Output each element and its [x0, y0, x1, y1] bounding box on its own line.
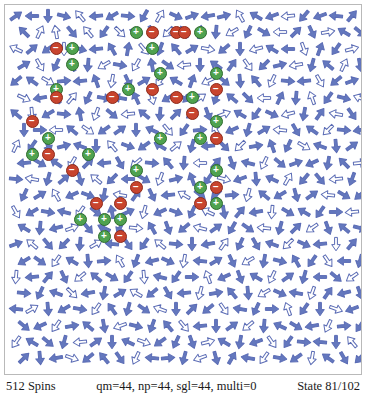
spin-arrow-icon	[175, 154, 192, 171]
negative-charge-icon[interactable]: −	[50, 91, 63, 104]
negative-charge-icon[interactable]: −	[194, 197, 207, 210]
status-bar: 512 Spins qm=44, np=44, sgl=44, multi=0 …	[0, 375, 366, 397]
charge-glyph: −	[53, 43, 59, 53]
charge-glyph: +	[69, 43, 75, 53]
positive-charge-icon[interactable]: +	[98, 230, 111, 243]
charge-glyph: +	[45, 133, 51, 143]
charge-glyph: −	[117, 198, 123, 208]
negative-charge-icon[interactable]: −	[186, 107, 199, 120]
negative-charge-icon[interactable]: −	[114, 230, 127, 243]
spin-arrow-icon	[343, 203, 360, 220]
negative-charge-icon[interactable]: −	[26, 115, 39, 128]
spin-arrow-icon	[311, 236, 328, 253]
negative-charge-icon[interactable]: −	[178, 26, 191, 39]
charge-glyph: −	[69, 165, 75, 175]
charge-glyph: −	[213, 182, 219, 192]
charge-glyph: +	[85, 149, 91, 159]
parameters-label: qm=44, np=44, sgl=44, multi=0	[56, 379, 297, 394]
charge-glyph: −	[213, 133, 219, 143]
spin-arrow-icon	[159, 350, 176, 367]
negative-charge-icon[interactable]: −	[210, 132, 223, 145]
charge-glyph: −	[197, 198, 203, 208]
negative-charge-icon[interactable]: −	[114, 197, 127, 210]
spin-arrow-icon	[287, 89, 304, 106]
charge-glyph: +	[197, 27, 203, 37]
charge-glyph: −	[149, 27, 155, 37]
positive-charge-icon[interactable]: +	[74, 213, 87, 226]
positive-charge-icon[interactable]: +	[154, 67, 167, 80]
spin-arrow-icon	[279, 73, 296, 90]
charge-glyph: +	[133, 165, 139, 175]
charge-glyph: +	[157, 68, 163, 78]
spin-arrow-icon	[39, 202, 58, 221]
positive-charge-icon[interactable]: +	[210, 115, 223, 128]
state-index-label: State 81/102	[297, 379, 360, 394]
positive-charge-icon[interactable]: +	[154, 132, 167, 145]
positive-charge-icon[interactable]: +	[82, 148, 95, 161]
negative-charge-icon[interactable]: −	[130, 181, 143, 194]
spin-arrow-icon	[7, 268, 24, 285]
negative-charge-icon[interactable]: −	[90, 197, 103, 210]
charge-glyph: −	[213, 84, 219, 94]
charge-glyph: +	[213, 68, 219, 78]
negative-charge-icon[interactable]: −	[146, 83, 159, 96]
lattice-panel[interactable]: +−−−+−+++++++−−−−−+−−++++−+−+−++−+−−−−++…	[4, 4, 362, 375]
charge-glyph: +	[189, 92, 195, 102]
positive-charge-icon[interactable]: +	[146, 42, 159, 55]
positive-charge-icon[interactable]: +	[210, 164, 223, 177]
positive-charge-icon[interactable]: +	[194, 26, 207, 39]
charge-glyph: −	[173, 92, 179, 102]
charge-glyph: −	[149, 84, 155, 94]
negative-charge-icon[interactable]: −	[66, 164, 79, 177]
negative-charge-icon[interactable]: −	[210, 83, 223, 96]
spin-arrow-icon	[231, 333, 250, 352]
positive-charge-icon[interactable]: +	[66, 42, 79, 55]
spin-arrow-icon	[167, 236, 184, 253]
charge-glyph: +	[69, 59, 75, 69]
charge-glyph: +	[197, 133, 203, 143]
positive-charge-icon[interactable]: +	[130, 26, 143, 39]
positive-charge-icon[interactable]: +	[66, 58, 79, 71]
negative-charge-icon[interactable]: −	[42, 148, 55, 161]
charge-glyph: −	[117, 231, 123, 241]
positive-charge-icon[interactable]: +	[98, 213, 111, 226]
charge-glyph: +	[157, 133, 163, 143]
charge-glyph: −	[189, 108, 195, 118]
charge-glyph: +	[101, 231, 107, 241]
negative-charge-icon[interactable]: −	[50, 42, 63, 55]
charge-glyph: +	[197, 182, 203, 192]
positive-charge-icon[interactable]: +	[114, 213, 127, 226]
spin-arrow-icon	[143, 350, 160, 367]
charge-glyph: −	[133, 182, 139, 192]
spin-arrow-icon	[184, 236, 200, 252]
spin-lattice-app: +−−−+−+++++++−−−−−+−−++++−+−+−++−+−−−−++…	[0, 0, 366, 397]
negative-charge-icon[interactable]: −	[106, 91, 119, 104]
charge-glyph: +	[77, 214, 83, 224]
negative-charge-icon[interactable]: −	[170, 91, 183, 104]
positive-charge-icon[interactable]: +	[42, 132, 55, 145]
charge-glyph: −	[93, 198, 99, 208]
negative-charge-icon[interactable]: −	[146, 26, 159, 39]
charge-glyph: +	[101, 214, 107, 224]
charge-glyph: −	[53, 92, 59, 102]
charge-glyph: +	[117, 214, 123, 224]
positive-charge-icon[interactable]: +	[130, 164, 143, 177]
positive-charge-icon[interactable]: +	[122, 83, 135, 96]
positive-charge-icon[interactable]: +	[210, 197, 223, 210]
charge-glyph: −	[181, 27, 187, 37]
positive-charge-icon[interactable]: +	[194, 132, 207, 145]
positive-charge-icon[interactable]: +	[186, 91, 199, 104]
charge-glyph: +	[213, 165, 219, 175]
spin-arrow-icon	[128, 122, 144, 138]
charge-glyph: +	[133, 27, 139, 37]
positive-charge-icon[interactable]: +	[194, 181, 207, 194]
positive-charge-icon[interactable]: +	[210, 67, 223, 80]
charge-glyph: −	[109, 92, 115, 102]
charge-glyph: −	[29, 116, 35, 126]
lattice-canvas[interactable]: +−−−+−+++++++−−−−−+−−++++−+−+−++−+−−−−++…	[5, 5, 361, 374]
spin-arrow-icon	[312, 301, 328, 317]
charge-glyph: +	[29, 149, 35, 159]
charge-glyph: −	[45, 149, 51, 159]
negative-charge-icon[interactable]: −	[210, 181, 223, 194]
positive-charge-icon[interactable]: +	[26, 148, 39, 161]
